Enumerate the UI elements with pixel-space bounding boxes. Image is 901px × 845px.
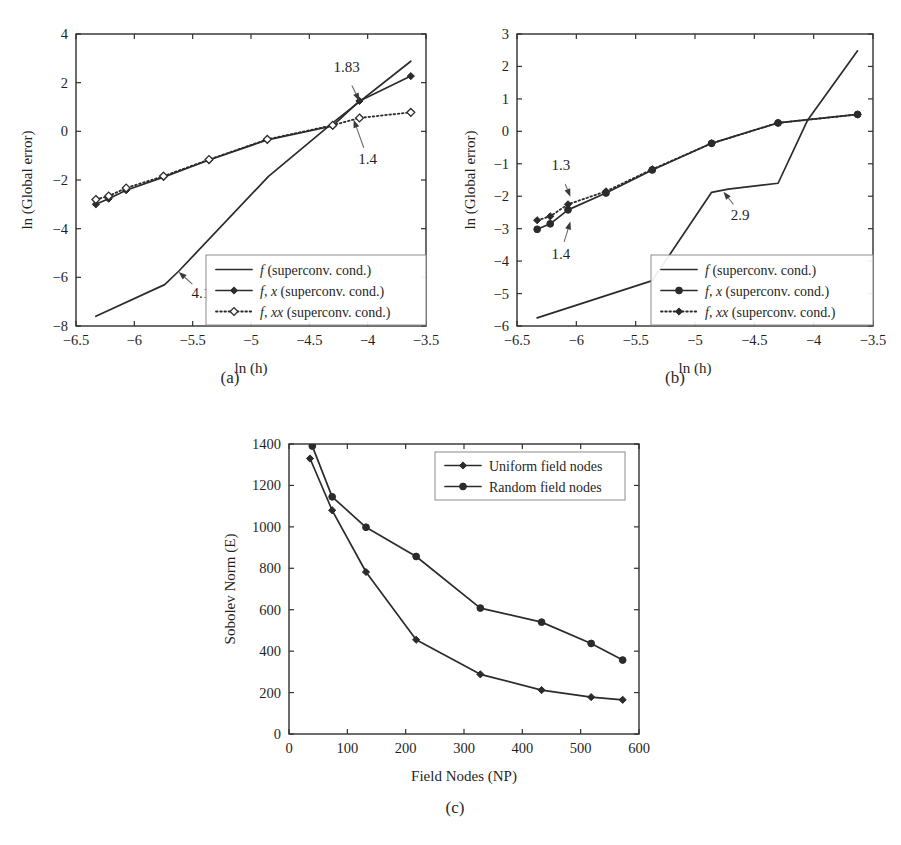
data-point xyxy=(619,657,626,664)
chart-panel-c: 0100200300400500600020040060080010001200… xyxy=(215,430,695,830)
annotation-label: 1.4 xyxy=(552,246,571,262)
y-tick-label: −3 xyxy=(494,221,509,237)
annotation-leader xyxy=(564,222,571,242)
x-tick-label: −4.5 xyxy=(296,332,322,348)
legend-label-1: Random field nodes xyxy=(489,480,602,495)
y-tick-label: −2 xyxy=(53,172,68,188)
legend-label-1: f, x (superconv. cond.) xyxy=(705,284,830,300)
x-tick-label: 200 xyxy=(395,740,417,756)
y-tick-label: −2 xyxy=(494,188,509,204)
x-axis-title: Field Nodes (NP) xyxy=(411,768,517,785)
legend-label-0: Uniform field nodes xyxy=(489,459,603,474)
series-1 xyxy=(92,73,414,208)
x-tick-label: −4 xyxy=(360,332,376,348)
annotation-label: 2.9 xyxy=(731,207,750,223)
x-tick-label: −5 xyxy=(687,332,702,348)
x-tick-label: 600 xyxy=(628,740,650,756)
y-axis-title: Sobolev Norm (E) xyxy=(222,534,239,645)
annotation-leader xyxy=(179,272,193,284)
x-tick-label: 500 xyxy=(570,740,592,756)
y-tick-label: 3 xyxy=(502,26,509,42)
series-2 xyxy=(534,111,862,224)
y-tick-label: 4 xyxy=(61,26,69,42)
data-point xyxy=(329,507,336,514)
legend-label-2: f, xx (superconv. cond.) xyxy=(705,305,836,321)
y-tick-label: −8 xyxy=(53,318,68,334)
x-tick-label: −3.5 xyxy=(860,332,886,348)
annotation-leader xyxy=(565,184,571,197)
data-point xyxy=(534,217,541,224)
data-point xyxy=(306,455,313,462)
x-tick-label: −6 xyxy=(127,332,142,348)
y-tick-label: 2 xyxy=(502,58,509,74)
y-tick-label: −4 xyxy=(494,253,510,269)
y-tick-label: −1 xyxy=(494,156,509,172)
y-tick-label: −6 xyxy=(494,318,509,334)
annotation-label: 1.83 xyxy=(334,59,360,75)
x-tick-label: −6.5 xyxy=(504,332,530,348)
chart-a-svg: −6.5−6−5.5−5−4.5−4−3.5−8−6−4−2024ln (h)l… xyxy=(10,20,450,365)
y-tick-label: 0 xyxy=(274,726,281,742)
x-tick-label: −6.5 xyxy=(63,332,89,348)
data-point xyxy=(477,605,484,612)
y-axis-title: ln (Global error) xyxy=(462,130,479,229)
data-point xyxy=(407,108,415,116)
legend: f (superconv. cond.)f, x (superconv. con… xyxy=(651,255,873,325)
x-tick-label: 300 xyxy=(453,740,475,756)
y-axis-title: ln (Global error) xyxy=(19,130,36,229)
data-point xyxy=(407,73,414,80)
data-point xyxy=(564,201,571,208)
x-tick-label: −6 xyxy=(569,332,584,348)
legend: Uniform field nodesRandom field nodes xyxy=(435,452,625,500)
legend-label-2: f, xx (superconv. cond.) xyxy=(260,305,391,321)
data-point xyxy=(205,156,213,164)
x-tick-label: −4.5 xyxy=(741,332,767,348)
x-tick-label: 400 xyxy=(511,740,533,756)
chart-panel-b: −6.5−6−5.5−5−4.5−4−3.5−6−5−4−3−2−10123ln… xyxy=(455,20,895,400)
x-tick-label: −5.5 xyxy=(180,332,206,348)
figure-container: −6.5−6−5.5−5−4.5−4−3.5−8−6−4−2024ln (h)l… xyxy=(0,0,901,845)
data-point xyxy=(477,671,484,678)
data-point xyxy=(538,686,545,693)
legend-label-0: f (superconv. cond.) xyxy=(260,263,371,279)
data-point xyxy=(534,226,541,233)
y-tick-label: 800 xyxy=(259,560,281,576)
legend-marker-1 xyxy=(676,287,683,294)
data-point xyxy=(619,696,626,703)
y-tick-label: 1400 xyxy=(252,436,281,452)
data-point xyxy=(356,114,364,122)
y-tick-label: 1200 xyxy=(252,477,281,493)
caption-c: (c) xyxy=(215,798,695,818)
y-tick-label: 1000 xyxy=(252,519,281,535)
annotation-leader xyxy=(723,192,733,205)
y-tick-label: 600 xyxy=(259,602,281,618)
x-tick-label: −4 xyxy=(806,332,822,348)
legend-marker-1 xyxy=(460,483,467,490)
x-tick-label: 100 xyxy=(336,740,358,756)
data-point xyxy=(329,493,336,500)
data-point xyxy=(363,524,370,531)
annotation-label: 1.3 xyxy=(552,157,571,173)
data-point xyxy=(413,553,420,560)
data-point xyxy=(547,220,554,227)
legend-label-1: f, x (superconv. cond.) xyxy=(260,284,385,300)
caption-a: (a) xyxy=(10,368,450,388)
legend-label-0: f (superconv. cond.) xyxy=(705,263,816,279)
y-tick-label: −6 xyxy=(53,269,68,285)
annotation-leader xyxy=(352,86,360,101)
chart-panel-a: −6.5−6−5.5−5−4.5−4−3.5−8−6−4−2024ln (h)l… xyxy=(10,20,450,400)
chart-b-svg: −6.5−6−5.5−5−4.5−4−3.5−6−5−4−3−2−10123ln… xyxy=(455,20,895,365)
y-tick-label: 1 xyxy=(502,91,509,107)
caption-b: (b) xyxy=(455,368,895,388)
y-tick-label: 200 xyxy=(259,685,281,701)
y-tick-label: 0 xyxy=(502,123,509,139)
y-tick-label: 2 xyxy=(61,75,68,91)
annotation-leader xyxy=(354,120,364,148)
y-tick-label: −4 xyxy=(53,221,69,237)
x-tick-label: −5.5 xyxy=(623,332,649,348)
x-tick-label: 0 xyxy=(285,740,292,756)
y-tick-label: 400 xyxy=(259,643,281,659)
legend: f (superconv. cond.)f, x (superconv. con… xyxy=(206,255,426,325)
y-tick-label: −5 xyxy=(494,286,509,302)
x-tick-label: −3.5 xyxy=(413,332,439,348)
